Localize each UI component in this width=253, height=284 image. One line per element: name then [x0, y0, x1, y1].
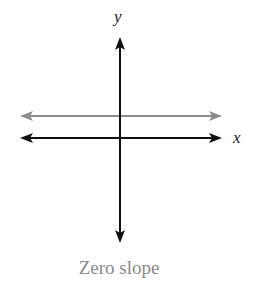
- x-axis-label: x: [233, 129, 241, 146]
- coordinate-plane: [0, 0, 253, 284]
- y-axis: [115, 37, 125, 243]
- y-axis-label: y: [114, 8, 122, 25]
- caption: Zero slope: [0, 258, 238, 277]
- zero-slope-diagram: y x Zero slope: [0, 0, 253, 284]
